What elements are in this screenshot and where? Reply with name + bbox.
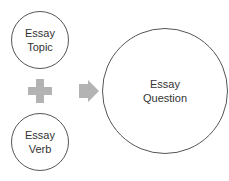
essay-question-label: Essay Question xyxy=(143,77,187,105)
essay-verb-label: Essay Verb xyxy=(25,128,55,156)
essay-verb-node: Essay Verb xyxy=(11,113,69,171)
plus-icon xyxy=(28,79,52,103)
arrow-right-icon xyxy=(79,80,99,102)
essay-topic-node: Essay Topic xyxy=(11,11,69,69)
essay-topic-label: Essay Topic xyxy=(25,26,55,54)
essay-question-node: Essay Question xyxy=(102,28,228,154)
